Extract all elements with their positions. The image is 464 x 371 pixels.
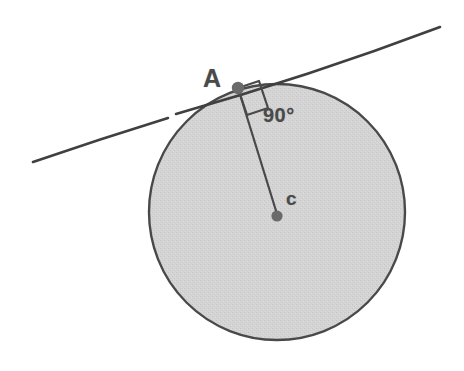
center-point-label: c — [286, 188, 297, 210]
geometry-figure: A 90° c — [0, 0, 464, 371]
geometry-diagram-canvas — [0, 0, 464, 371]
tangent-point-marker — [232, 82, 244, 94]
center-point-marker — [271, 210, 282, 221]
tangent-point-label: A — [203, 64, 221, 93]
right-angle-label: 90° — [263, 104, 295, 127]
